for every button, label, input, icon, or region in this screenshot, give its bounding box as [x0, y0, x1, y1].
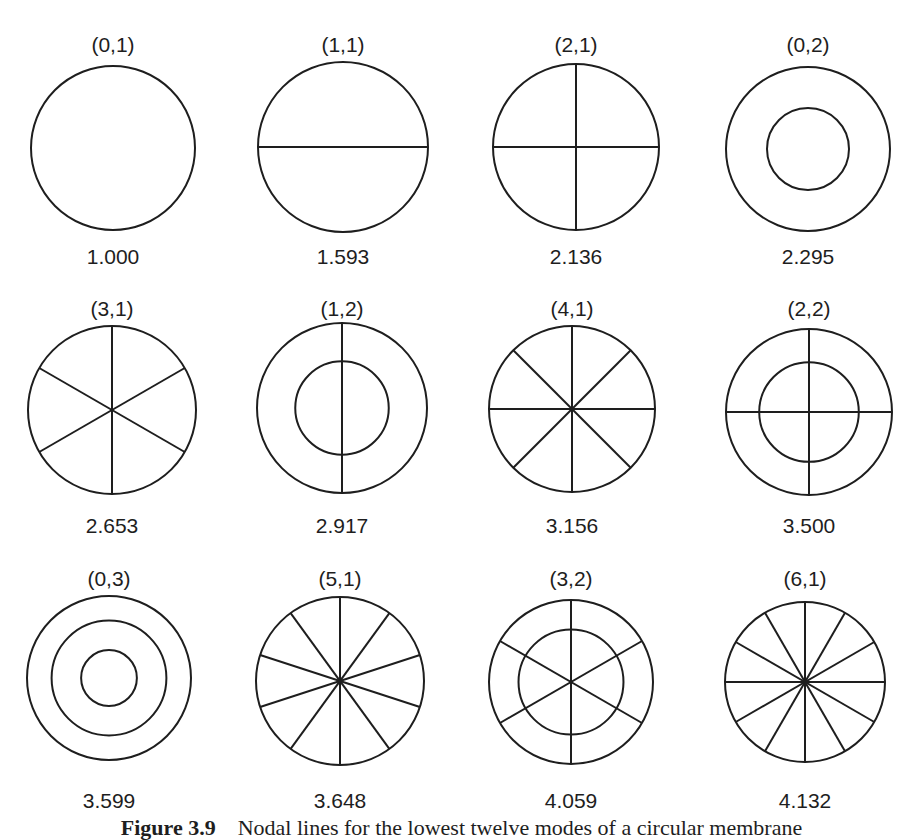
- nodal-circle: [81, 650, 137, 706]
- membrane-mode-6-1: [725, 602, 885, 762]
- membrane-mode-1-1: [258, 62, 428, 232]
- frequency-ratio-label: 2.295: [748, 246, 868, 267]
- mode-index-label: (5,1): [280, 568, 400, 589]
- mode-index-label: (4,1): [512, 298, 632, 319]
- caption-text: Nodal lines for the lowest twelve modes …: [238, 815, 802, 840]
- mode-index-label: (3,2): [511, 568, 631, 589]
- caption-label: Figure 3.9: [121, 815, 216, 840]
- figure-caption: Figure 3.9 Nodal lines for the lowest tw…: [0, 817, 923, 839]
- nodal-circle: [767, 108, 849, 190]
- membrane-mode-5-1: [256, 597, 424, 765]
- boundary-circle: [726, 67, 890, 231]
- mode-index-label: (2,1): [516, 34, 636, 55]
- mode-index-label: (3,1): [52, 298, 172, 319]
- frequency-ratio-label: 4.059: [511, 790, 631, 811]
- mode-index-label: (0,1): [53, 34, 173, 55]
- frequency-ratio-label: 1.000: [53, 246, 173, 267]
- frequency-ratio-label: 2.917: [282, 515, 402, 536]
- frequency-ratio-label: 3.500: [749, 515, 869, 536]
- membrane-mode-3-2: [489, 600, 653, 764]
- membrane-mode-4-1: [489, 326, 655, 492]
- membrane-mode-0-2: [726, 67, 890, 231]
- mode-index-label: (0,3): [49, 568, 169, 589]
- membrane-mode-1-2: [257, 323, 427, 493]
- frequency-ratio-label: 3.648: [280, 790, 400, 811]
- membrane-mode-2-1: [493, 64, 659, 230]
- membrane-mode-0-1: [31, 66, 195, 230]
- mode-index-label: (2,2): [749, 298, 869, 319]
- frequency-ratio-label: 1.593: [283, 246, 403, 267]
- mode-index-label: (6,1): [745, 568, 865, 589]
- frequency-ratio-label: 3.156: [512, 515, 632, 536]
- membrane-mode-2-2: [726, 329, 892, 495]
- mode-index-label: (1,1): [283, 34, 403, 55]
- frequency-ratio-label: 2.653: [52, 515, 172, 536]
- frequency-ratio-label: 2.136: [516, 246, 636, 267]
- membrane-mode-3-1: [28, 326, 196, 494]
- membrane-mode-0-3: [27, 596, 191, 760]
- frequency-ratio-label: 3.599: [49, 790, 169, 811]
- boundary-circle: [31, 66, 195, 230]
- mode-index-label: (1,2): [282, 298, 402, 319]
- mode-index-label: (0,2): [748, 34, 868, 55]
- frequency-ratio-label: 4.132: [745, 790, 865, 811]
- nodal-circle: [52, 621, 167, 736]
